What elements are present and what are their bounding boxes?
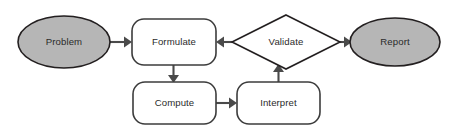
- arrowhead-icon: [216, 37, 224, 48]
- arrowhead-icon: [229, 98, 237, 109]
- node-formulate[interactable]: Formulate: [132, 19, 216, 65]
- edge-compute-to-interpret: [216, 98, 237, 109]
- flowchart-canvas: Problem Formulate Validate Report Comput…: [0, 0, 459, 135]
- edge-formulate-to-compute: [168, 65, 179, 83]
- node-report[interactable]: Report: [350, 18, 440, 66]
- node-interpret[interactable]: Interpret: [237, 82, 320, 124]
- node-formulate-label: Formulate: [152, 36, 196, 47]
- node-interpret-label: Interpret: [260, 97, 297, 108]
- node-problem-label: Problem: [46, 36, 82, 47]
- node-compute[interactable]: Compute: [133, 82, 216, 124]
- node-compute-label: Compute: [155, 97, 195, 108]
- node-validate[interactable]: Validate: [232, 15, 340, 69]
- node-report-label: Report: [380, 36, 410, 47]
- flowchart-diagram: Problem Formulate Validate Report Comput…: [0, 0, 459, 135]
- arrowhead-icon: [124, 37, 132, 48]
- edge-problem-to-formulate: [110, 37, 132, 48]
- node-validate-label: Validate: [269, 36, 304, 47]
- node-problem[interactable]: Problem: [18, 16, 110, 68]
- edge-validate-to-formulate: [216, 37, 232, 48]
